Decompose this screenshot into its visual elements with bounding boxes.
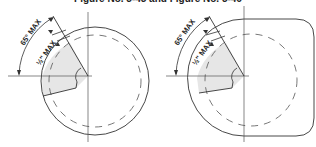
- angle-max-label: 65° MAX: [18, 17, 43, 47]
- arrow-head-icon: [174, 70, 178, 76]
- arrow-head-icon: [48, 17, 54, 22]
- arrow-head-icon: [17, 70, 21, 76]
- arrow-head-icon: [204, 17, 210, 22]
- figure-right-rounded-diagram: 65° MAX ½" MAX: [156, 0, 316, 147]
- figure-left-circle-diagram: 65° MAX ½" MAX: [0, 0, 158, 147]
- offset-tick-line: [206, 31, 220, 35]
- arrow-head-icon: [48, 30, 53, 34]
